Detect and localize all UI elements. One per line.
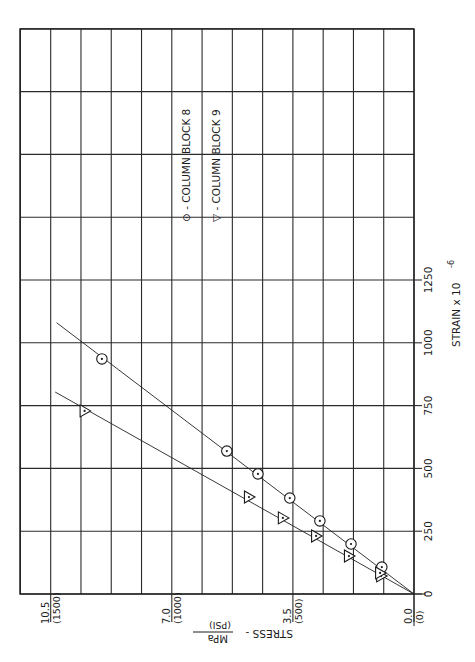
stress-tick-label-psi: (1500) bbox=[51, 592, 62, 624]
stress-tick-label-psi: (1000) bbox=[172, 592, 183, 624]
strain-tick-label: 250 bbox=[422, 521, 434, 541]
y-axis-title: STRESS - MPa (PSI) bbox=[193, 620, 293, 644]
marker-center-dot bbox=[84, 410, 86, 412]
marker-center-dot bbox=[348, 555, 350, 557]
axis-ticks: 0250500750100012500.0(0)3.5(500)7.0(1000… bbox=[40, 267, 434, 624]
legend: ⊙ - COLUMN BLOCK 8 ▽ - COLUMN BLOCK 9 bbox=[180, 109, 222, 222]
legend-item-block-8: ⊙ - COLUMN BLOCK 8 bbox=[180, 109, 192, 222]
x-axis-title: STRAIN x 10 -6 bbox=[447, 260, 462, 347]
strain-tick-label: 1000 bbox=[422, 329, 434, 356]
x-axis-title-text: STRAIN x 10 bbox=[450, 283, 462, 347]
marker-center-dot bbox=[248, 496, 250, 498]
stress-tick-label-mpa: 7.0 bbox=[161, 608, 172, 624]
strain-tick-label: 500 bbox=[422, 458, 434, 478]
y-axis-unit-psi: (PSI) bbox=[209, 620, 231, 631]
marker-center-dot bbox=[381, 566, 383, 568]
stress-tick-label-mpa: 10.5 bbox=[40, 602, 51, 624]
strain-tick-label: 750 bbox=[422, 396, 434, 416]
fit-lines bbox=[55, 323, 414, 594]
data-points bbox=[80, 354, 387, 582]
stress-tick-label-mpa: 0.0 bbox=[403, 608, 414, 624]
stress-tick-label-mpa: 3.5 bbox=[282, 608, 293, 624]
stress-tick-label-psi: (0) bbox=[414, 611, 425, 624]
marker-center-dot bbox=[257, 473, 259, 475]
fit-line-triangle bbox=[55, 392, 414, 594]
marker-center-dot bbox=[289, 497, 291, 499]
x-axis-title-exponent: -6 bbox=[447, 260, 456, 268]
marker-center-dot bbox=[350, 543, 352, 545]
strain-tick-label: 0 bbox=[422, 591, 434, 598]
marker-center-dot bbox=[319, 520, 321, 522]
marker-center-dot bbox=[101, 358, 103, 360]
y-axis-unit-mpa: MPa bbox=[208, 633, 228, 644]
stress-strain-chart: 0250500750100012500.0(0)3.5(500)7.0(1000… bbox=[0, 0, 475, 662]
marker-center-dot bbox=[282, 517, 284, 519]
legend-item-block-9: ▽ - COLUMN BLOCK 9 bbox=[210, 109, 222, 222]
marker-center-dot bbox=[379, 572, 381, 574]
strain-tick-label: 1250 bbox=[422, 267, 434, 294]
marker-center-dot bbox=[315, 535, 317, 537]
marker-center-dot bbox=[226, 450, 228, 452]
y-axis-title-text: STRESS - bbox=[245, 628, 293, 640]
fit-line-circle bbox=[57, 323, 414, 594]
stress-tick-label-psi: (500) bbox=[293, 598, 304, 624]
